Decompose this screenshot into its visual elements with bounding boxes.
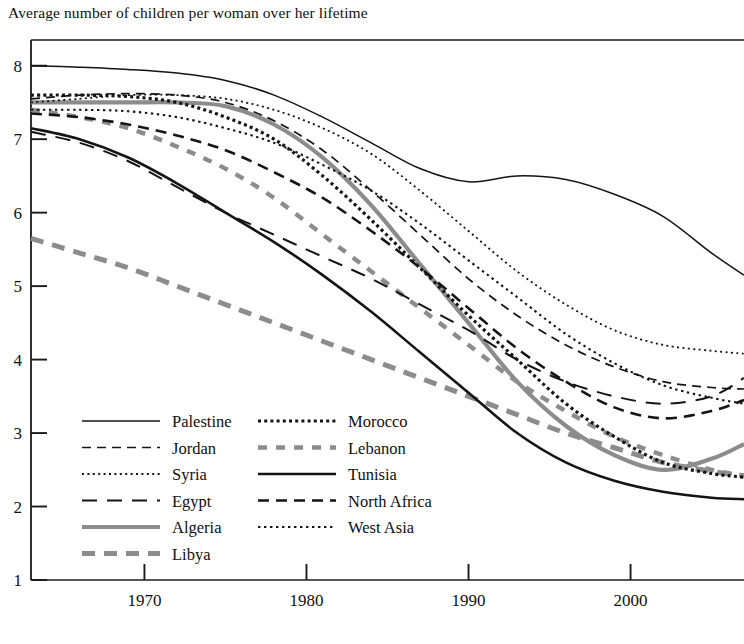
legend-item: Algeria bbox=[82, 518, 222, 537]
legend-item: Jordan bbox=[82, 439, 216, 458]
legend-item: Libya bbox=[82, 545, 211, 564]
x-tick-label: 1990 bbox=[452, 591, 486, 610]
y-tick-label: 2 bbox=[14, 498, 23, 517]
legend-label: Egypt bbox=[172, 492, 212, 511]
series-line bbox=[31, 110, 744, 404]
y-tick-label: 3 bbox=[14, 424, 23, 443]
legend-label: Morocco bbox=[348, 412, 408, 431]
x-tick-label: 1970 bbox=[127, 591, 161, 610]
y-tick-label: 7 bbox=[14, 130, 23, 149]
x-tick-label: 1980 bbox=[289, 591, 323, 610]
legend-label: Syria bbox=[172, 465, 208, 484]
legend-item: Tunisia bbox=[258, 465, 398, 484]
legend-item: Palestine bbox=[82, 412, 232, 431]
legend-item: Syria bbox=[82, 465, 208, 484]
legend-item: North Africa bbox=[258, 492, 433, 511]
legend-label: Palestine bbox=[172, 412, 232, 431]
legend-label: Libya bbox=[172, 545, 211, 564]
legend-label: Algeria bbox=[172, 518, 222, 537]
x-tick-label: 2000 bbox=[614, 591, 648, 610]
y-tick-label: 1 bbox=[14, 571, 23, 590]
legend-item: Lebanon bbox=[258, 439, 406, 458]
chart-plot-area: 123456781970198019902000PalestineJordanS… bbox=[0, 0, 744, 644]
legend-label: Jordan bbox=[172, 439, 216, 458]
legend-item: West Asia bbox=[258, 518, 415, 537]
legend-item: Egypt bbox=[82, 492, 212, 511]
legend-label: North Africa bbox=[348, 492, 433, 511]
line-chart-svg: 123456781970198019902000PalestineJordanS… bbox=[0, 0, 744, 644]
y-tick-label: 6 bbox=[14, 204, 23, 223]
legend-label: Tunisia bbox=[348, 465, 398, 484]
y-tick-label: 8 bbox=[14, 57, 23, 76]
y-tick-label: 4 bbox=[14, 351, 23, 370]
legend-label: West Asia bbox=[348, 518, 415, 537]
legend-label: Lebanon bbox=[348, 439, 406, 458]
series-line bbox=[31, 113, 744, 418]
y-tick-label: 5 bbox=[14, 277, 23, 296]
legend-item: Morocco bbox=[258, 412, 408, 431]
series-line bbox=[31, 132, 744, 404]
